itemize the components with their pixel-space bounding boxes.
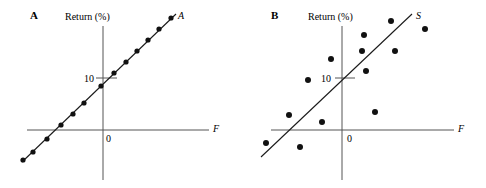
figure-container: A Return (%) 10 0 F A bbox=[0, 0, 486, 188]
data-point bbox=[388, 18, 394, 24]
data-point bbox=[20, 157, 25, 162]
data-point bbox=[361, 32, 367, 38]
data-point bbox=[44, 136, 49, 141]
data-point bbox=[319, 119, 325, 125]
data-point bbox=[328, 56, 334, 62]
data-point bbox=[286, 112, 292, 118]
data-point bbox=[58, 122, 63, 127]
data-point bbox=[263, 140, 269, 146]
panel-b-plot bbox=[243, 0, 486, 188]
data-point bbox=[98, 83, 103, 88]
panel-a-data-points bbox=[20, 15, 173, 162]
data-point bbox=[70, 111, 75, 116]
data-point bbox=[392, 48, 398, 54]
data-point bbox=[30, 149, 35, 154]
panel-b: B Return (%) 10 0 F S bbox=[243, 0, 486, 188]
data-point bbox=[297, 144, 303, 150]
panel-a: A Return (%) 10 0 F A bbox=[0, 0, 243, 188]
data-point bbox=[111, 70, 116, 75]
data-point bbox=[123, 59, 128, 64]
data-point bbox=[372, 109, 378, 115]
data-point bbox=[145, 37, 150, 42]
panel-b-regression-line bbox=[261, 14, 412, 157]
data-point bbox=[168, 15, 173, 20]
data-point bbox=[81, 100, 86, 105]
data-point bbox=[305, 77, 311, 83]
data-point bbox=[156, 26, 161, 31]
data-point bbox=[359, 48, 365, 54]
data-point bbox=[363, 68, 369, 74]
data-point bbox=[422, 26, 428, 32]
panel-a-plot bbox=[0, 0, 243, 188]
data-point bbox=[134, 48, 139, 53]
